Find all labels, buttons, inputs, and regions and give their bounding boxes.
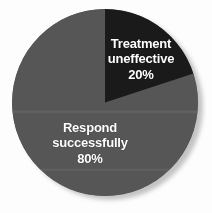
pie-chart-figure: Treatment uneffective 20% Respond succes… bbox=[0, 0, 212, 213]
pie-label-treatment-uneffective: Treatment uneffective 20% bbox=[98, 36, 184, 82]
label-line-uneffective: uneffective bbox=[98, 51, 184, 66]
label-line-treatment: Treatment bbox=[98, 36, 184, 51]
pie-label-respond-successfully: Respond successfully 80% bbox=[38, 120, 142, 166]
label-line-respond: Respond bbox=[38, 120, 142, 135]
label-line-successfully: successfully bbox=[38, 135, 142, 150]
label-value-respond: 80% bbox=[38, 151, 142, 166]
label-value-uneffective: 20% bbox=[98, 67, 184, 82]
